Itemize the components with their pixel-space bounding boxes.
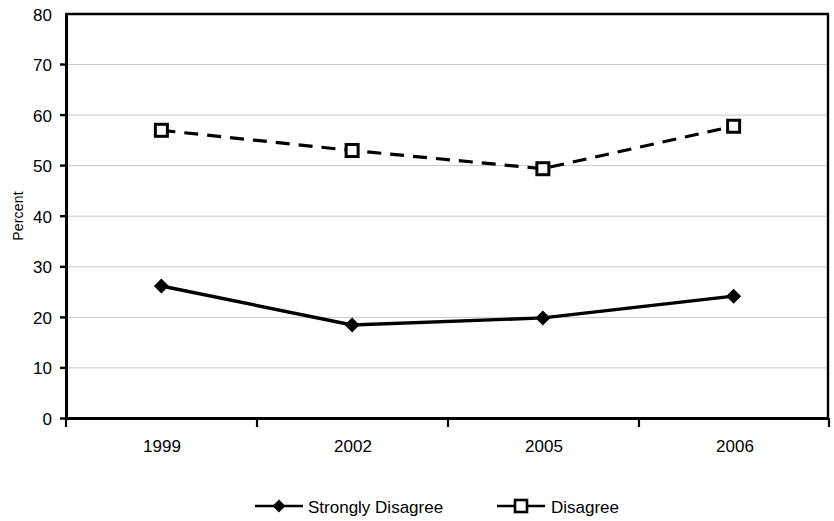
data-point — [537, 163, 549, 175]
data-point — [346, 145, 358, 157]
data-point — [345, 317, 360, 332]
series-disagree — [155, 120, 739, 174]
series-layer — [154, 120, 741, 332]
chart-container: Percent 80 70 60 50 40 30 20 10 0 1999 2… — [0, 0, 834, 521]
data-point — [155, 124, 167, 136]
series-strongly-disagree — [154, 279, 741, 333]
legend-label-strongly-disagree: Strongly Disagree — [308, 498, 443, 518]
plot-area — [0, 0, 834, 521]
data-point — [726, 289, 741, 304]
data-point — [535, 310, 550, 325]
legend-label-disagree: Disagree — [551, 498, 619, 518]
series-line — [161, 286, 733, 325]
data-point — [728, 120, 740, 132]
series-line — [161, 126, 733, 169]
data-point — [154, 279, 169, 294]
